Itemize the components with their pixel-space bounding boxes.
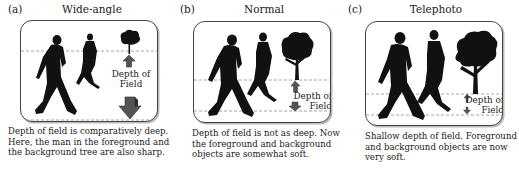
depth-of-field-label: Depth of Field [288, 91, 331, 111]
tree-icon [282, 32, 314, 80]
depth-of-field-label: Depth of Field [460, 95, 503, 115]
tree-icon [455, 31, 497, 94]
man-silhouette-icon [35, 35, 77, 115]
man-silhouette-icon [378, 32, 425, 120]
tree-icon [121, 30, 141, 54]
panel-caption: Depth of field is comparatively deep. He… [8, 126, 169, 158]
panel-caption: Depth of field is not as deep. Now the f… [192, 128, 340, 160]
man-silhouette-icon [208, 35, 254, 118]
scene-frame: Depth of Field [193, 21, 331, 123]
panel-normal: (b) Normal [172, 0, 344, 175]
panel-caption: Shallow depth of field. Foreground and b… [365, 131, 517, 163]
woman-silhouette-icon [247, 33, 277, 103]
arrow-down-icon [119, 97, 141, 119]
woman-silhouette-icon [76, 34, 100, 90]
scene-frame: Depth of Field [20, 20, 158, 122]
depth-of-field-label: Depth of Field [105, 69, 157, 89]
scene-frame: Depth of Field [365, 21, 503, 126]
woman-silhouette-icon [417, 30, 451, 112]
panel-wide-angle: (a) Wide-angle [0, 0, 172, 175]
arrow-up-icon [123, 55, 135, 67]
panel-title: Normal [178, 3, 350, 15]
panel-title: Wide-angle [6, 3, 178, 15]
panel-title: Telephoto [350, 3, 519, 15]
panel-telephoto: (c) Telephoto [344, 0, 516, 175]
